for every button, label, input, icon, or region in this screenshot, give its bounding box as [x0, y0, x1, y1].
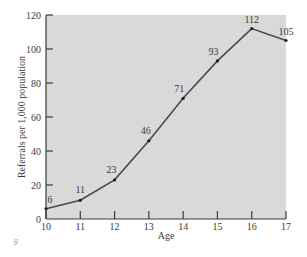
y-tick-label: 80 [31, 78, 41, 89]
data-point [250, 27, 253, 30]
x-tick-label: 15 [212, 221, 222, 232]
x-tick-label: 13 [144, 221, 154, 232]
data-label: 6 [48, 194, 53, 205]
line-chart: 020406080100120 1011121314151617 6112346… [0, 0, 307, 257]
data-point [284, 39, 287, 42]
x-tick-label: 12 [110, 221, 120, 232]
data-label: 11 [75, 184, 85, 195]
data-label: 23 [107, 164, 117, 175]
data-point [182, 97, 185, 100]
x-tick-label: 17 [281, 221, 291, 232]
x-tick-label: 10 [41, 221, 51, 232]
figure-mark: g [14, 236, 18, 245]
x-tick-label: 14 [178, 221, 188, 232]
y-tick-label: 100 [26, 44, 41, 55]
data-label: 112 [244, 14, 259, 25]
data-label: 46 [141, 125, 151, 136]
x-tick-label: 11 [75, 221, 85, 232]
data-point [147, 139, 150, 142]
data-point [216, 59, 219, 62]
x-tick-label: 16 [247, 221, 257, 232]
y-tick-label: 40 [31, 146, 41, 157]
y-axis-title: Referrals per 1,000 population [16, 56, 27, 178]
y-tick-label: 20 [31, 180, 41, 191]
data-label: 105 [279, 26, 294, 37]
x-axis-title: Age [158, 230, 175, 241]
y-tick-label: 60 [31, 112, 41, 123]
data-point [79, 199, 82, 202]
y-tick-label: 120 [26, 10, 41, 21]
data-label: 71 [174, 83, 184, 94]
data-point [113, 178, 116, 181]
data-point [44, 207, 47, 210]
data-label: 93 [208, 46, 218, 57]
